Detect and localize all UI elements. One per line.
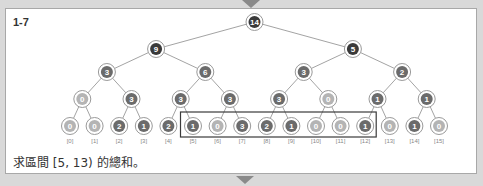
leaf-index-label: [1] xyxy=(91,138,98,144)
tree-node: 1 xyxy=(418,91,435,108)
tree-node: 3 xyxy=(234,118,251,135)
svg-text:1: 1 xyxy=(424,95,429,104)
svg-text:3: 3 xyxy=(277,95,282,104)
svg-text:1: 1 xyxy=(363,122,368,131)
bottom-arrow-icon xyxy=(236,176,254,184)
svg-text:0: 0 xyxy=(338,122,343,131)
leaf-index-label: [9] xyxy=(288,138,295,144)
svg-text:1: 1 xyxy=(289,122,294,131)
tree-node: 1 xyxy=(135,118,152,135)
svg-text:2: 2 xyxy=(166,122,171,131)
tree-node: 2 xyxy=(258,118,275,135)
svg-text:2: 2 xyxy=(400,68,405,77)
tree-node: 1 xyxy=(406,118,423,135)
svg-text:5: 5 xyxy=(351,45,356,54)
svg-text:2: 2 xyxy=(117,122,122,131)
svg-text:0: 0 xyxy=(326,95,331,104)
svg-text:3: 3 xyxy=(301,68,306,77)
svg-text:0: 0 xyxy=(314,122,319,131)
tree-node: 0 xyxy=(308,118,325,135)
leaf-index-label: [11] xyxy=(336,138,346,144)
tree-edge xyxy=(156,22,254,49)
leaf-index-label: [8] xyxy=(263,138,270,144)
tree-node: 1 xyxy=(185,118,202,135)
leaf-index-label: [4] xyxy=(165,138,172,144)
leaf-index-label: [10] xyxy=(311,138,321,144)
leaf-index-label: [5] xyxy=(190,138,197,144)
svg-text:3: 3 xyxy=(105,68,110,77)
tree-edge xyxy=(255,22,353,49)
tree-node: 0 xyxy=(74,91,91,108)
tree-node: 0 xyxy=(332,118,349,135)
svg-text:1: 1 xyxy=(412,122,417,131)
svg-text:0: 0 xyxy=(437,122,442,131)
leaf-index-label: [12] xyxy=(360,138,370,144)
tree-node: 2 xyxy=(160,118,177,135)
figure-caption: 求區間 [5, 13) 的總和。 xyxy=(13,153,145,170)
tree-node: 0 xyxy=(62,118,79,135)
tree-node: 1 xyxy=(369,91,386,108)
tree-node: 1 xyxy=(357,118,374,135)
tree-node: 0 xyxy=(381,118,398,135)
tree-node: 1 xyxy=(283,118,300,135)
svg-text:6: 6 xyxy=(203,68,208,77)
leaf-index-label: [0] xyxy=(67,138,74,144)
leaf-index-label: [13] xyxy=(385,138,395,144)
svg-text:3: 3 xyxy=(228,95,233,104)
tree-node: 0 xyxy=(86,118,103,135)
svg-text:3: 3 xyxy=(178,95,183,104)
svg-text:1: 1 xyxy=(191,122,196,131)
leaf-index-label: [2] xyxy=(116,138,123,144)
leaf-index-label: [3] xyxy=(140,138,147,144)
tree-node: 5 xyxy=(344,41,361,58)
tree-node: 3 xyxy=(98,64,115,81)
tree-node: 2 xyxy=(111,118,128,135)
leaf-index-label: [6] xyxy=(214,138,221,144)
leaf-index-label: [14] xyxy=(409,138,419,144)
leaf-index-label: [7] xyxy=(239,138,246,144)
svg-text:14: 14 xyxy=(250,18,259,27)
svg-text:2: 2 xyxy=(265,122,270,131)
svg-text:0: 0 xyxy=(215,122,220,131)
svg-text:0: 0 xyxy=(80,95,85,104)
svg-text:0: 0 xyxy=(388,122,393,131)
tree-node: 0 xyxy=(431,118,448,135)
tree-node: 3 xyxy=(271,91,288,108)
tree-node: 3 xyxy=(123,91,140,108)
tree-node: 3 xyxy=(172,91,189,108)
leaf-index-label: [15] xyxy=(434,138,444,144)
tree-node: 14 xyxy=(246,14,263,31)
tree-node: 2 xyxy=(394,64,411,81)
tree-node: 3 xyxy=(295,64,312,81)
svg-text:3: 3 xyxy=(240,122,245,131)
tree-node: 9 xyxy=(148,41,165,58)
svg-text:0: 0 xyxy=(92,122,97,131)
svg-text:1: 1 xyxy=(142,122,147,131)
svg-text:9: 9 xyxy=(154,45,159,54)
tree-node: 6 xyxy=(197,64,214,81)
tree-node: 3 xyxy=(221,91,238,108)
svg-text:0: 0 xyxy=(68,122,73,131)
svg-text:3: 3 xyxy=(129,95,134,104)
svg-text:1: 1 xyxy=(375,95,380,104)
tree-node: 0 xyxy=(320,91,337,108)
tree-node: 0 xyxy=(209,118,226,135)
